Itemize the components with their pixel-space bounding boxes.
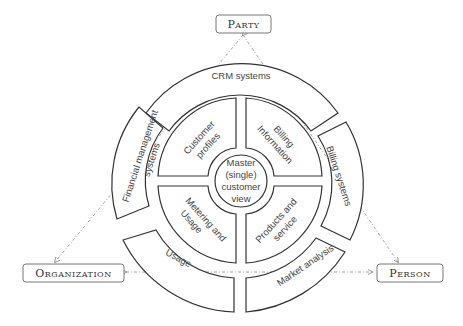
node-party[interactable]: Party: [216, 15, 271, 33]
node-organization-label: Organization: [35, 267, 111, 280]
customer-view-diagram: Master (single) customer view Customer p…: [0, 0, 463, 326]
node-party-label: Party: [227, 18, 259, 31]
node-person-label: Person: [389, 267, 430, 280]
node-person[interactable]: Person: [377, 264, 443, 282]
label-crm-systems: CRM systems: [211, 70, 270, 81]
center-line-4: view: [231, 193, 250, 204]
center-line-1: Master: [226, 157, 255, 168]
center-line-2: (single): [225, 169, 256, 180]
center-line-3: customer: [221, 181, 260, 192]
node-organization[interactable]: Organization: [23, 264, 124, 282]
